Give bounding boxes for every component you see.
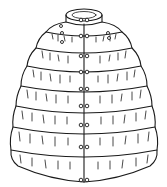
cape-drawing bbox=[0, 0, 167, 187]
garment-illustration bbox=[0, 0, 167, 187]
collar bbox=[66, 9, 102, 25]
